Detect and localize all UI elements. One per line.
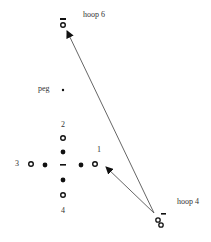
- position-1-label: 1: [97, 146, 101, 154]
- hoop-6-label: hoop 6: [83, 11, 105, 19]
- hoop-6-marker: [60, 18, 66, 27]
- position-3-label: 3: [15, 160, 19, 168]
- peg-dot: [62, 89, 64, 91]
- arrow-to-position-1: [106, 167, 154, 213]
- hoop-4-marker: [156, 213, 166, 227]
- position-4-label: 4: [61, 207, 65, 215]
- hoop-4-label: hoop 4: [177, 198, 199, 206]
- ball-positions: [29, 136, 98, 198]
- arrow-to-hoop-6: [67, 31, 154, 213]
- peg-label: peg: [38, 85, 50, 93]
- position-2-label: 2: [61, 121, 65, 129]
